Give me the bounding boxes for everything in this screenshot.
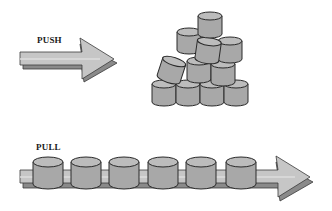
- can-icon: [198, 12, 222, 38]
- pull-label: PULL: [36, 142, 61, 152]
- can-icon: [148, 157, 178, 189]
- can-icon: [226, 157, 256, 189]
- can-icon: [109, 157, 139, 189]
- diagram-canvas: [0, 0, 332, 211]
- push-can-pile: [152, 12, 248, 106]
- push-label: PUSH: [37, 35, 62, 45]
- can-icon: [194, 36, 221, 65]
- can-icon: [186, 157, 216, 189]
- can-icon: [71, 157, 101, 189]
- push-arrow: [20, 38, 117, 82]
- can-icon: [33, 157, 63, 189]
- can-icon: [176, 80, 200, 106]
- can-icon: [218, 37, 242, 63]
